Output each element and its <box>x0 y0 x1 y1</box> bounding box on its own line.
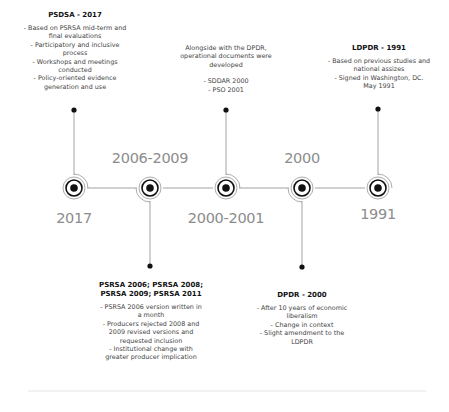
block-psrsa: PSRSA 2006; PSRSA 2008; PSRSA 2009; PSRS… <box>92 281 210 362</box>
block-line: LDPDR <box>250 338 354 346</box>
block-psdsa: PSDSA - 2017 - Based on PSRSA mid-term a… <box>4 11 146 91</box>
node-2017-icon <box>61 174 88 201</box>
block-line: - After 10 years of economic <box>250 304 354 312</box>
block-line: conducted <box>4 66 146 74</box>
block-line: - PSO 2001 <box>166 86 286 94</box>
block-title: PSRSA 2006; PSRSA 2008; <box>92 281 210 290</box>
node-2006-2009-icon <box>136 175 163 202</box>
dot-dpdr-icon <box>299 264 304 269</box>
block-line: - Producers rejected 2008 and <box>92 320 210 328</box>
year-label-1991: 1991 <box>360 206 396 222</box>
block-line: requested inclusion <box>92 337 210 345</box>
block-line: operational documents were <box>166 52 286 60</box>
block-line: - Signed in Washington, DC. <box>315 74 443 82</box>
block-title: PSRSA 2009; PSRSA 2011 <box>92 290 210 299</box>
block-line: - Based on PSRSA mid-term and <box>4 24 146 32</box>
node-1991-icon <box>365 174 392 201</box>
node-2000-2001-icon <box>213 174 240 201</box>
block-line: national assizes <box>315 65 443 73</box>
dot-psrsa-icon <box>147 263 152 268</box>
block-line: - Policy-oriented evidence <box>4 74 146 82</box>
block-operational-documents: Alongside with the DPDR, operational doc… <box>166 44 286 94</box>
block-title: LDPDR - 1991 <box>315 44 443 53</box>
block-line: - Slight amendment to the <box>250 329 354 337</box>
block-line: developed <box>166 61 286 69</box>
year-label-2000-2001: 2000-2001 <box>188 210 264 226</box>
year-label-2017: 2017 <box>56 210 92 226</box>
block-dpdr: DPDR - 2000 - After 10 years of economic… <box>250 291 354 346</box>
dot-psdsa-icon <box>71 107 76 112</box>
block-line <box>166 69 286 77</box>
block-ldpdr: LDPDR - 1991 - Based on previous studies… <box>315 44 443 91</box>
block-line: - Change in context <box>250 321 354 329</box>
block-line: generation and use <box>4 83 146 91</box>
block-line: final evaluations <box>4 32 146 40</box>
block-title: PSDSA - 2017 <box>4 11 146 20</box>
block-line: 2009 revised versions and <box>92 328 210 336</box>
block-line: liberalism <box>250 312 354 320</box>
node-2000-icon <box>288 175 315 202</box>
block-line: Alongside with the DPDR, <box>166 44 286 52</box>
dot-operational-icon <box>223 107 228 112</box>
block-line: process <box>4 49 146 57</box>
year-label-2000: 2000 <box>284 150 320 166</box>
block-line: - PSRSA 2006 version written in <box>92 303 210 311</box>
year-label-2006-2009: 2006-2009 <box>112 150 188 166</box>
block-title: DPDR - 2000 <box>250 291 354 300</box>
dot-ldpdr-icon <box>375 106 380 111</box>
block-line: - Based on previous studies and <box>315 57 443 65</box>
block-line: - SDDAR 2000 <box>166 77 286 85</box>
block-line: a month <box>92 311 210 319</box>
block-line: May 1991 <box>315 82 443 90</box>
block-line: - Participatory and inclusive <box>4 41 146 49</box>
block-line: - Workshops and meetings <box>4 58 146 66</box>
block-line: - Institutional change with <box>92 345 210 353</box>
block-line: greater producer implication <box>92 353 210 361</box>
